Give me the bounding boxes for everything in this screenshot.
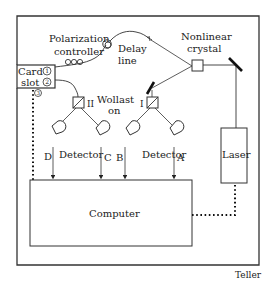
computer-label: Computer [89, 208, 140, 219]
beam-out [152, 66, 192, 88]
detector-D-icon [52, 121, 66, 134]
polarization-label-2: controller [54, 46, 104, 57]
detector-B-icon [126, 121, 140, 135]
card-slot-label-2: slot [21, 77, 39, 88]
delay-label-1: Delay [118, 43, 147, 54]
det-A-label: A [176, 152, 185, 163]
detector-A-icon [170, 121, 184, 135]
mirror-wollaston-icon [147, 82, 154, 94]
svg-text:3: 3 [36, 90, 40, 96]
beam-in [151, 40, 192, 66]
svg-text:1: 1 [45, 67, 49, 74]
svg-text:2: 2 [45, 78, 49, 85]
laser-label: Laser [222, 149, 251, 160]
nonlinear-crystal-box [192, 60, 203, 71]
fiber-port2 [55, 80, 78, 97]
nonlinear-label-2: crystal [187, 43, 221, 54]
mirror-laser-icon [229, 58, 242, 71]
card-slot-label-1: Card [18, 66, 43, 77]
port-3-icon: 3 [35, 90, 42, 97]
laser-beam [203, 65, 236, 128]
polarization-label-1: Polarization [49, 33, 110, 44]
delay-label-2: line [118, 55, 137, 66]
wollaston-label-2: on [108, 105, 121, 116]
experiment-diagram: Card slot 1 2 3 Polarization controller … [0, 0, 273, 281]
detector-left-label: Detector [59, 149, 104, 160]
wollaston-II-prism [73, 97, 84, 108]
det-B-label: B [116, 152, 123, 163]
fiber-delay [110, 31, 150, 41]
detector-C-icon [96, 121, 110, 135]
nonlinear-label-1: Nonlinear [181, 31, 232, 42]
wollaston-I-label: I [140, 99, 144, 109]
wollaston-I-prism [147, 97, 158, 108]
wollaston-label-1: Wollast [97, 94, 134, 105]
dotted-computer-to-laser [192, 185, 235, 215]
credit-label: Teller [235, 270, 262, 280]
wollaston-II-label: II [87, 99, 95, 109]
det-D-label: D [44, 151, 52, 162]
det-C-label: C [104, 152, 112, 163]
